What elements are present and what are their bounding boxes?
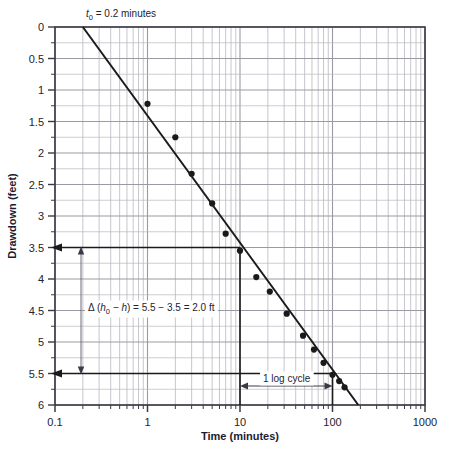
data-point [329,372,335,378]
x-tick-label: 100 [323,416,341,428]
log-cycle-annotation: 1 log cycle [263,373,311,384]
y-tick-label: 3.5 [29,242,44,254]
t0-rest: = 0.2 minutes [93,8,156,19]
data-point [209,200,215,206]
chart-canvas: 0.11101001000 00.511.522.533.544.555.56 … [0,0,456,451]
x-tick-label: 0.1 [47,416,62,428]
data-point [300,333,306,339]
data-point [253,274,259,280]
y-tick-label: 5 [38,336,44,348]
data-point [144,101,150,107]
y-tick-label: 2.5 [29,179,44,191]
data-point [336,378,342,384]
y-tick-label: 4.5 [29,305,44,317]
y-tick-label: 0 [38,21,44,33]
y-tick-label: 3 [38,210,44,222]
data-point [267,289,273,295]
data-point [189,171,195,177]
data-point [311,346,317,352]
data-point [237,248,243,254]
y-tick-label: 5.5 [29,368,44,380]
data-point [320,360,326,366]
delta-prefix: Δ ( [88,302,101,313]
data-point [341,384,347,390]
y-tick-label: 0.5 [29,53,44,65]
y-axis-title: Drawdown (feet) [6,173,18,259]
delta-minus-h: − h [110,302,127,313]
x-tick-label: 1 [144,416,150,428]
x-tick-label: 1000 [413,416,437,428]
data-point [172,134,178,140]
data-point [223,231,229,237]
y-tick-label: 2 [38,147,44,159]
y-tick-label: 6 [38,399,44,411]
y-tick-label: 1 [38,84,44,96]
y-tick-label: 4 [38,273,44,285]
delta-suffix: ) = 5.5 − 3.5 = 2.0 ft [127,302,215,313]
drawdown-vs-time-chart: 0.11101001000 00.511.522.533.544.555.56 … [0,0,456,451]
x-tick-label: 10 [234,416,246,428]
data-point [284,311,290,317]
y-tick-label: 1.5 [29,116,44,128]
x-axis-title: Time (minutes) [201,430,279,442]
